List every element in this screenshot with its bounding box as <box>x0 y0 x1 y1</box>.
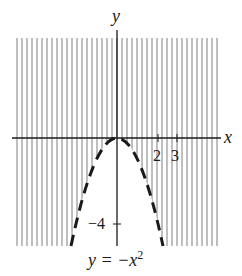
y-axis-label: y <box>110 6 120 26</box>
x-tick-label-2: 2 <box>153 147 161 164</box>
equation-text: y = −x <box>86 250 137 270</box>
x-tick-label-3: 3 <box>171 147 179 164</box>
equation-exponent: 2 <box>137 248 143 262</box>
inequality-graph: y x 2 3 −4 y = −x2 <box>0 0 242 276</box>
y-tick-label-neg4: −4 <box>88 215 105 232</box>
equation-label: y = −x2 <box>86 248 143 270</box>
x-axis-label: x <box>223 127 232 147</box>
